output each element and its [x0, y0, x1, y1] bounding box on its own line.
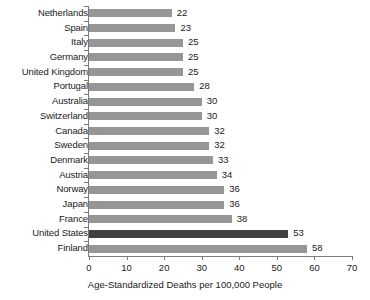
y-axis-tick: [84, 6, 88, 7]
x-axis-tick-label: 0: [74, 262, 104, 273]
x-axis-tick: [89, 256, 90, 260]
y-axis-line: [88, 6, 89, 256]
y-axis-tick: [84, 241, 88, 242]
x-axis-tick-label: 50: [262, 262, 292, 273]
bar-value-label: 32: [214, 140, 225, 150]
bar: [89, 98, 202, 106]
category-label: Australia: [52, 96, 88, 106]
bar: [89, 112, 202, 120]
category-label: United Kingdom: [22, 67, 88, 77]
y-axis-tick: [84, 94, 88, 95]
y-axis-tick: [84, 153, 88, 154]
bar-value-label: 25: [188, 67, 199, 77]
category-label: Austria: [59, 170, 88, 180]
category-label: Portugal: [53, 81, 88, 91]
category-label: Finland: [58, 243, 88, 253]
category-label: France: [59, 214, 88, 224]
bar: [89, 68, 183, 76]
bar-value-label: 58: [312, 243, 323, 253]
category-label: Canada: [55, 126, 88, 136]
y-axis-tick: [84, 35, 88, 36]
y-axis-tick: [84, 21, 88, 22]
x-axis-tick: [202, 256, 203, 260]
x-axis-tick: [277, 256, 278, 260]
bar-value-label: 33: [218, 155, 229, 165]
category-label: United States: [32, 228, 88, 238]
x-axis-tick: [127, 256, 128, 260]
bar-value-label: 38: [237, 214, 248, 224]
bar-value-label: 28: [199, 81, 210, 91]
y-axis-tick: [84, 212, 88, 213]
category-label: Norway: [56, 184, 88, 194]
bar: [89, 230, 288, 238]
y-axis-tick: [84, 50, 88, 51]
category-label: Netherlands: [38, 8, 88, 18]
x-axis-tick: [239, 256, 240, 260]
bar: [89, 39, 183, 47]
y-axis-tick: [84, 80, 88, 81]
y-axis-tick: [84, 138, 88, 139]
bar: [89, 215, 232, 223]
category-label: Japan: [63, 199, 88, 209]
x-axis-tick-label: 60: [299, 262, 329, 273]
bar: [89, 127, 209, 135]
bar: [89, 83, 194, 91]
x-axis-tick-label: 40: [224, 262, 254, 273]
x-axis-tick-label: 20: [149, 262, 179, 273]
category-label: Germany: [50, 52, 88, 62]
x-axis-tick-label: 10: [112, 262, 142, 273]
bar: [89, 53, 183, 61]
category-label: Switzerland: [40, 111, 88, 121]
bar-value-label: 30: [207, 96, 218, 106]
y-axis-tick: [84, 227, 88, 228]
y-axis-tick: [84, 197, 88, 198]
y-axis-tick: [84, 168, 88, 169]
category-label: Spain: [64, 23, 88, 33]
bar-value-label: 25: [188, 37, 199, 47]
bar: [89, 9, 172, 17]
x-axis-tick-label: 30: [187, 262, 217, 273]
bar-value-label: 32: [214, 126, 225, 136]
bar-value-label: 22: [177, 8, 188, 18]
category-label: Sweden: [54, 140, 88, 150]
y-axis-tick: [84, 182, 88, 183]
x-axis-tick: [352, 256, 353, 260]
x-axis-tick: [164, 256, 165, 260]
category-label: Italy: [71, 37, 88, 47]
bar: [89, 142, 209, 150]
y-axis-tick: [84, 65, 88, 66]
bar: [89, 245, 307, 253]
category-label: Denmark: [50, 155, 88, 165]
bar-value-label: 36: [229, 199, 240, 209]
x-axis-title: Age-Standardized Deaths per 100,000 Peop…: [0, 279, 370, 290]
bar: [89, 186, 224, 194]
bar-value-label: 36: [229, 184, 240, 194]
bar-value-label: 53: [293, 228, 304, 238]
y-axis-tick: [84, 124, 88, 125]
bar-chart: NetherlandsSpainItalyGermanyUnited Kingd…: [0, 0, 370, 300]
bar-value-label: 25: [188, 52, 199, 62]
bar: [89, 156, 213, 164]
bar: [89, 24, 175, 32]
bar: [89, 171, 217, 179]
bar-value-label: 23: [180, 23, 191, 33]
bar-value-label: 30: [207, 111, 218, 121]
y-axis-tick: [84, 109, 88, 110]
bar: [89, 201, 224, 209]
x-axis-tick-label: 70: [337, 262, 367, 273]
x-axis-tick: [314, 256, 315, 260]
bar-value-label: 34: [222, 170, 233, 180]
